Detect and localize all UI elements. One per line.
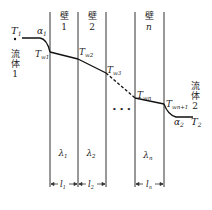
- wall-n-char: 壁: [145, 10, 154, 21]
- fluid-1-char-3: 1: [12, 69, 18, 79]
- ellipsis: • • •: [112, 105, 131, 114]
- T1-label: T1: [11, 25, 22, 37]
- Twn1-label: Twn+1: [166, 99, 188, 110]
- heat-conduction-diagram: 壁 1 壁 2 壁 n T1 α1 流 体 1 Tw1 Tw2 Tw3 Twn …: [0, 0, 212, 210]
- fluid-2-char-3: 2: [192, 101, 198, 111]
- fluid-1-char-2: 体: [11, 58, 20, 69]
- wall-n-num: n: [146, 22, 152, 32]
- alpha2-label: α2: [174, 117, 184, 128]
- ln-label: ln: [146, 179, 152, 190]
- lambda1-label: λ1: [57, 148, 67, 159]
- wall-2-num: 2: [89, 22, 95, 32]
- wall-1-char: 壁: [60, 10, 69, 21]
- fluid-2-char-1: 流: [191, 80, 200, 91]
- alpha1-label: α1: [37, 26, 47, 37]
- l1-label: l1: [60, 179, 66, 190]
- fluid-1-labels: T1 α1 流 体 1: [11, 25, 47, 79]
- wall-1-num: 1: [61, 22, 67, 32]
- lambda2-label: λ2: [85, 148, 96, 159]
- T2-label: T2: [191, 116, 202, 128]
- Tw2-label: Tw2: [79, 47, 94, 58]
- conductivity-labels: λ1 λ2 λn: [57, 148, 153, 161]
- Twn-label: Twn: [137, 90, 152, 101]
- fluid-2-char-2: 体: [191, 90, 200, 101]
- lambdan-label: λn: [142, 150, 153, 161]
- fluid1-temperature-point: [14, 38, 16, 40]
- wall-2-char: 壁: [88, 10, 97, 21]
- Tw3-label: Tw3: [107, 65, 122, 76]
- Tw1-label: Tw1: [35, 49, 49, 60]
- fluid-1-char-1: 流: [11, 48, 20, 59]
- l2-label: l2: [88, 179, 94, 190]
